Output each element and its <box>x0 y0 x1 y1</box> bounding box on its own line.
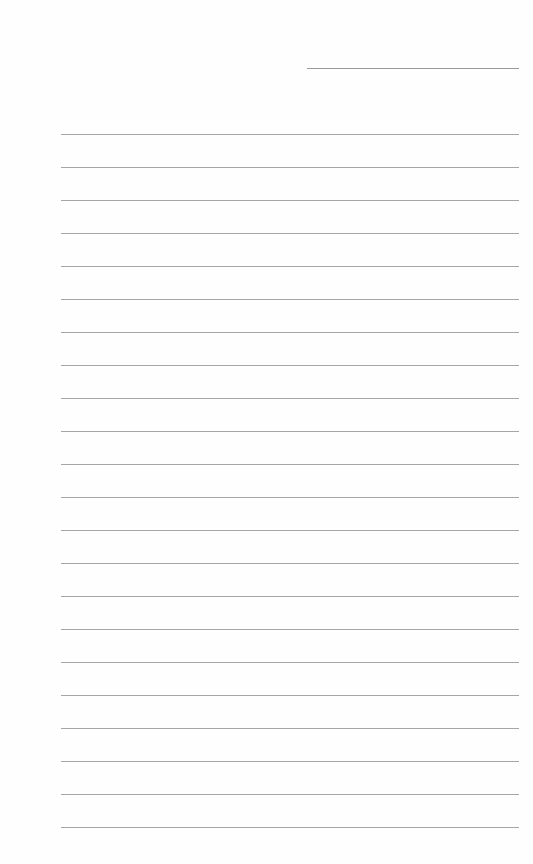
ruled-line <box>61 662 519 663</box>
ruled-line <box>61 629 519 630</box>
lined-paper-page <box>0 0 533 864</box>
ruled-line <box>61 167 519 168</box>
ruled-line <box>61 431 519 432</box>
ruled-line <box>61 200 519 201</box>
ruled-line <box>61 299 519 300</box>
ruled-line <box>61 827 519 828</box>
ruled-line <box>61 365 519 366</box>
header-name-line <box>307 68 519 69</box>
ruled-line <box>61 530 519 531</box>
ruled-line <box>61 497 519 498</box>
ruled-line <box>61 266 519 267</box>
ruled-line <box>61 695 519 696</box>
ruled-line <box>61 563 519 564</box>
ruled-line <box>61 332 519 333</box>
ruled-line <box>61 134 519 135</box>
ruled-line <box>61 728 519 729</box>
ruled-line <box>61 761 519 762</box>
ruled-line <box>61 794 519 795</box>
ruled-line <box>61 464 519 465</box>
ruled-line <box>61 398 519 399</box>
ruled-line <box>61 233 519 234</box>
ruled-line <box>61 596 519 597</box>
